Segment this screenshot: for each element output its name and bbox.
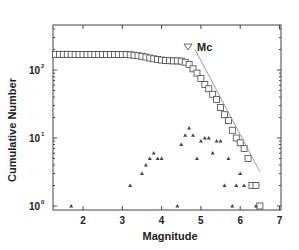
- y-tick-label: 10: [29, 133, 41, 144]
- triangle-marker: [203, 136, 207, 140]
- square-marker: [198, 75, 204, 81]
- triangle-marker: [69, 204, 73, 208]
- square-marker: [245, 155, 251, 161]
- y-tick-exponent: 0: [41, 199, 45, 205]
- triangle-marker: [211, 151, 215, 155]
- square-marker: [221, 112, 227, 118]
- triangle-marker: [215, 139, 219, 143]
- triangle-marker: [222, 184, 226, 188]
- square-marker: [237, 140, 243, 146]
- triangle-marker: [226, 156, 230, 160]
- triangle-marker: [230, 204, 234, 208]
- y-tick-exponent: 2: [41, 63, 45, 69]
- x-tick-label: 6: [237, 215, 243, 226]
- square-marker: [225, 118, 231, 124]
- triangle-marker: [160, 156, 164, 160]
- x-tick-label: 5: [198, 215, 204, 226]
- triangle-marker: [144, 163, 148, 167]
- triangle-marker: [179, 143, 183, 147]
- triangle-marker: [199, 139, 203, 143]
- triangle-marker: [207, 136, 211, 140]
- chart-svg: 234567100101102Mc: [0, 0, 299, 250]
- triangle-marker: [238, 172, 242, 176]
- square-marker: [257, 203, 263, 209]
- triangle-marker: [128, 184, 132, 188]
- triangle-marker: [140, 172, 144, 176]
- x-tick-label: 4: [159, 215, 165, 226]
- square-marker: [253, 183, 259, 189]
- square-marker: [214, 96, 220, 102]
- y-tick-exponent: 1: [41, 131, 45, 137]
- square-marker: [218, 105, 224, 111]
- x-tick-label: 7: [277, 215, 283, 226]
- y-tick-label: 10: [29, 65, 41, 76]
- x-tick-label: 3: [120, 215, 126, 226]
- triangle-marker: [191, 133, 195, 137]
- triangle-marker: [242, 184, 246, 188]
- x-tick-label: 2: [80, 215, 86, 226]
- mc-annotation-label: Mc: [197, 41, 212, 53]
- y-tick-label: 10: [29, 201, 41, 212]
- triangle-marker: [183, 133, 187, 137]
- triangle-marker: [156, 156, 160, 160]
- triangle-marker: [219, 139, 223, 143]
- triangle-marker: [187, 126, 191, 130]
- triangle-marker: [175, 204, 179, 208]
- mc-marker-icon: [184, 44, 192, 50]
- triangle-marker: [152, 151, 156, 155]
- square-marker: [229, 127, 235, 133]
- triangle-marker: [148, 156, 152, 160]
- fit-line: [195, 50, 260, 172]
- triangle-marker: [234, 184, 238, 188]
- triangle-marker: [195, 156, 199, 160]
